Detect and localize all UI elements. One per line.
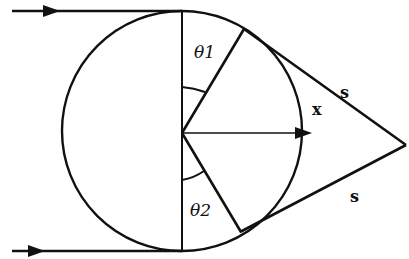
diagram-canvas: θ1 θ2 x s s — [0, 0, 409, 259]
label-s-upper: s — [340, 83, 349, 102]
label-theta1: θ1 — [194, 42, 215, 62]
angle-arc-theta2 — [182, 171, 204, 180]
label-x: x — [312, 100, 322, 119]
top-ray — [12, 5, 182, 17]
bottom-ray — [12, 245, 182, 257]
arrow-right-icon — [43, 5, 60, 17]
arrow-right-icon — [295, 127, 312, 139]
x-vector — [182, 127, 312, 139]
tangent-upper-s — [244, 29, 406, 145]
label-s-lower: s — [350, 187, 359, 206]
tangent-lower-s — [240, 145, 406, 232]
label-theta2: θ2 — [190, 200, 211, 220]
angle-arc-theta1 — [182, 87, 205, 92]
arrow-right-icon — [28, 245, 45, 257]
